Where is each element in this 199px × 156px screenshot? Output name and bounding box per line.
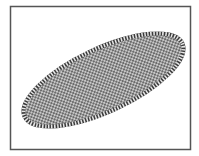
drawing-canvas [0,0,199,156]
